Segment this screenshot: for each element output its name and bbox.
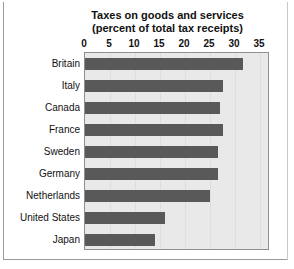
x-tick-label-20: 20 bbox=[178, 38, 189, 49]
category-label-france: France bbox=[49, 124, 80, 136]
x-tick-label-0: 0 bbox=[81, 38, 87, 49]
bar-row bbox=[85, 102, 268, 114]
bar-row bbox=[85, 212, 268, 224]
category-label-canada: Canada bbox=[45, 102, 80, 114]
x-axis-tick-labels: 05101520253035 bbox=[0, 38, 294, 52]
bar-series bbox=[85, 53, 268, 249]
bar-row bbox=[85, 168, 268, 180]
category-label-italy: Italy bbox=[62, 80, 80, 92]
bar-britain bbox=[85, 58, 243, 70]
category-label-netherlands: Netherlands bbox=[26, 190, 80, 202]
x-tick-label-5: 5 bbox=[106, 38, 112, 49]
chart-subtitle: (percent of total tax receipts) bbox=[60, 22, 275, 35]
bar-row bbox=[85, 190, 268, 202]
x-tick-label-15: 15 bbox=[153, 38, 164, 49]
chart-title: Taxes on goods and services bbox=[60, 9, 275, 22]
chart-title-block: Taxes on goods and services (percent of … bbox=[60, 9, 275, 35]
category-label-sweden: Sweden bbox=[44, 146, 80, 158]
plot-area bbox=[84, 52, 269, 250]
x-tick-label-30: 30 bbox=[228, 38, 239, 49]
bar-row bbox=[85, 80, 268, 92]
y-axis-category-labels: BritainItalyCanadaFranceSwedenGermanyNet… bbox=[0, 52, 80, 250]
bar-japan bbox=[85, 234, 155, 246]
bar-italy bbox=[85, 80, 223, 92]
x-tick-label-10: 10 bbox=[128, 38, 139, 49]
category-label-united-states: United States bbox=[20, 212, 80, 224]
bar-united-states bbox=[85, 212, 165, 224]
bar-canada bbox=[85, 102, 220, 114]
bar-row bbox=[85, 234, 268, 246]
chart-figure: Taxes on goods and services (percent of … bbox=[0, 0, 294, 269]
category-label-germany: Germany bbox=[39, 168, 80, 180]
bar-germany bbox=[85, 168, 218, 180]
figure-border-bottom bbox=[3, 259, 288, 260]
bar-sweden bbox=[85, 146, 218, 158]
bar-row bbox=[85, 146, 268, 158]
bar-row bbox=[85, 58, 268, 70]
category-label-japan: Japan bbox=[53, 234, 80, 246]
bar-france bbox=[85, 124, 223, 136]
bar-netherlands bbox=[85, 190, 210, 202]
bar-row bbox=[85, 124, 268, 136]
category-label-britain: Britain bbox=[52, 58, 80, 70]
x-tick-label-35: 35 bbox=[253, 38, 264, 49]
x-tick-label-25: 25 bbox=[203, 38, 214, 49]
